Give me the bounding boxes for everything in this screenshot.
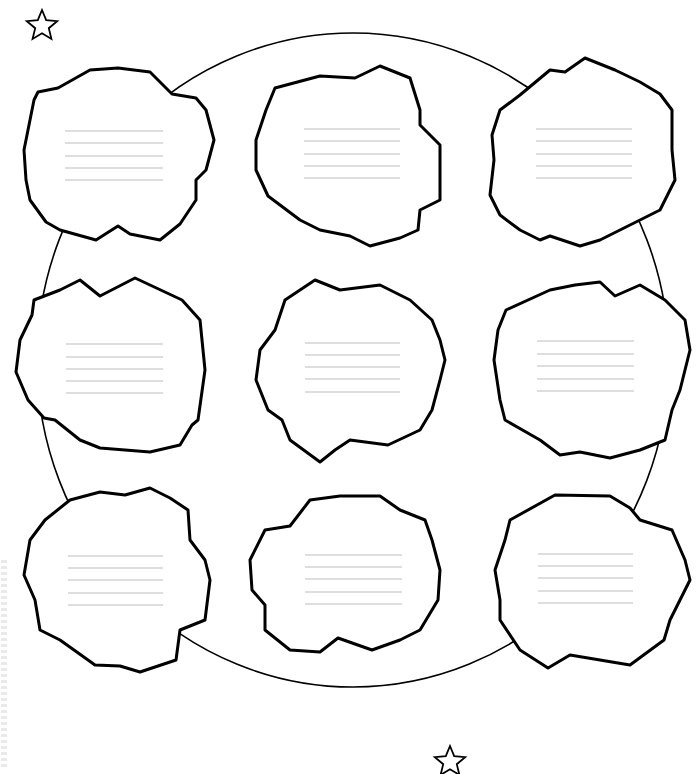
cloud-organizer-group — [16, 58, 690, 672]
cloud-outline — [494, 282, 690, 458]
worksheet-canvas — [0, 0, 698, 774]
cloud-text-box[interactable] — [494, 282, 690, 458]
side-copyright-strip — [1, 560, 7, 770]
